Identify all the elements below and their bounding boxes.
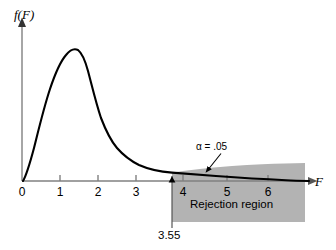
alpha-annotation-label: α = .05 (196, 142, 227, 152)
x-tick-label-3: 3 (129, 186, 143, 198)
x-tick-label-1: 1 (53, 186, 67, 198)
f-density-curve (23, 49, 309, 181)
alpha-leader-line (209, 154, 221, 169)
x-tick-label-4: 4 (176, 186, 190, 198)
f-distribution-figure: f(F) F 0 1 2 3 4 5 6 α = .05 Rejection r… (0, 0, 336, 250)
critical-value-label: 3.55 (158, 230, 180, 242)
x-tick-label-5: 5 (220, 186, 234, 198)
x-axis-label: F (315, 175, 323, 188)
x-tick-label-2: 2 (91, 186, 105, 198)
y-axis-label: f(F) (14, 8, 34, 21)
rejection-region-label: Rejection region (190, 199, 273, 211)
x-tick-label-0: 0 (15, 186, 29, 198)
x-tick-label-6: 6 (261, 186, 275, 198)
chart-canvas (0, 0, 336, 250)
